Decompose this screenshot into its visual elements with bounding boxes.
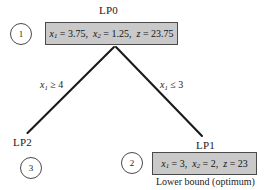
node-label-lp2: LP2 <box>13 136 32 148</box>
solution-text-lp1: x1 = 3, x2 = 2, z = 23 <box>155 159 254 169</box>
badge-lp1: 2 <box>121 152 143 174</box>
edge-lp0-lp1 <box>116 47 202 136</box>
edge-label-left: x1 ≥ 4 <box>40 79 63 90</box>
lower-bound-caption: Lower bound (optimum) <box>156 176 255 187</box>
node-label-lp1: LP1 <box>196 139 215 151</box>
badge-lp2: 3 <box>20 157 42 179</box>
solution-text-lp0: x1 = 3.75, x2 = 1.25, z = 23.75 <box>43 29 179 39</box>
edge-lp0-lp2 <box>28 47 115 133</box>
badge-lp0: 1 <box>10 23 32 45</box>
solution-box-lp1: x1 = 3, x2 = 2, z = 23 <box>152 152 257 175</box>
solution-box-lp0: x1 = 3.75, x2 = 1.25, z = 23.75 <box>45 22 178 45</box>
badge-lp0-text: 1 <box>19 29 24 39</box>
branch-and-bound-diagram: LP0 1 x1 = 3.75, x2 = 1.25, z = 23.75 x1… <box>0 0 267 190</box>
edge-label-right: x1 ≤ 3 <box>160 79 183 90</box>
node-label-lp0: LP0 <box>99 4 118 16</box>
badge-lp1-text: 2 <box>130 158 135 168</box>
badge-lp2-text: 3 <box>29 163 34 173</box>
